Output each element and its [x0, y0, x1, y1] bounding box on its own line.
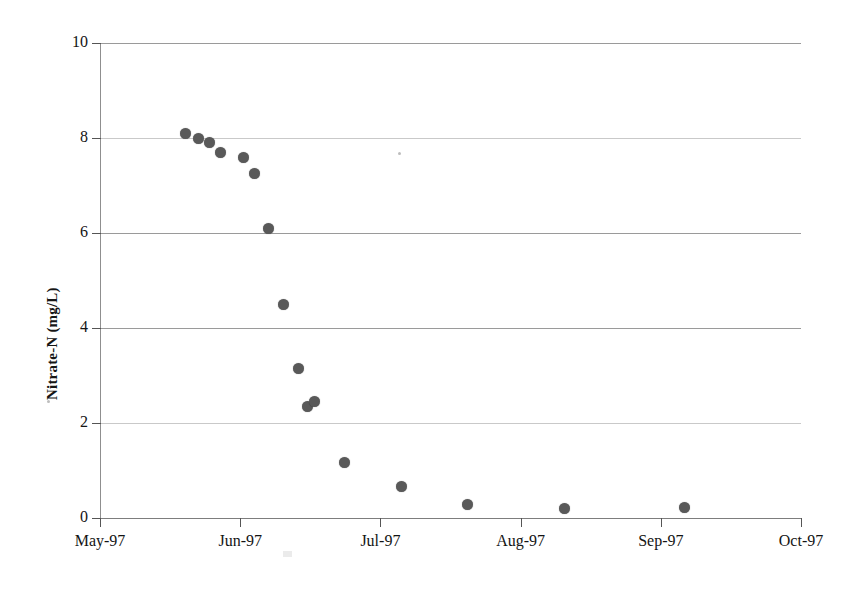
gridline [100, 233, 801, 234]
scan-speck-icon [398, 152, 401, 155]
y-tick-label-wrap: 6 [40, 224, 88, 240]
data-point [462, 499, 473, 510]
x-tick-mark [240, 518, 241, 527]
x-tick-label: Oct-97 [746, 531, 856, 551]
x-tick-mark [100, 518, 101, 527]
y-tick-label: 4 [48, 319, 88, 335]
x-tick-label: Jul-97 [325, 531, 435, 551]
x-tick-mark [661, 518, 662, 527]
data-point [204, 137, 215, 148]
data-point [559, 503, 570, 514]
chart-container: Nitrate-N (mg/L) 0246810 May-97Jun-97Jul… [0, 0, 864, 596]
gridline [100, 328, 801, 329]
y-tick-mark [92, 328, 101, 329]
x-tick-label: Aug-97 [466, 531, 576, 551]
data-point [263, 223, 274, 234]
y-tick-label: 6 [48, 224, 88, 240]
x-tick-mark [801, 518, 802, 527]
x-tick-mark [521, 518, 522, 527]
data-point [339, 457, 350, 468]
scan-smudge-icon [283, 551, 292, 557]
data-point [249, 168, 260, 179]
y-tick-label-wrap: 8 [40, 129, 88, 145]
data-point [238, 152, 249, 163]
data-point [193, 133, 204, 144]
y-axis-line [100, 43, 101, 519]
y-tick-mark [92, 423, 101, 424]
y-tick-label: 0 [48, 509, 88, 525]
data-point [309, 396, 320, 407]
x-tick-mark [380, 518, 381, 527]
x-tick-label: May-97 [45, 531, 155, 551]
scan-speck-icon [47, 400, 50, 403]
y-tick-label: 10 [48, 34, 88, 50]
y-tick-label: 2 [48, 414, 88, 430]
y-axis-title: Nitrate-N (mg/L) [44, 100, 68, 400]
data-point [293, 363, 304, 374]
x-axis-line [100, 518, 802, 519]
data-point [278, 299, 289, 310]
x-tick-label: Jun-97 [185, 531, 295, 551]
y-tick-mark [92, 43, 101, 44]
y-tick-label: 8 [48, 129, 88, 145]
gridline [100, 423, 801, 424]
data-point [215, 147, 226, 158]
gridline [100, 43, 801, 44]
y-tick-label-wrap: 2 [40, 414, 88, 430]
y-tick-label-wrap: 0 [40, 509, 88, 525]
y-tick-label-wrap: 10 [40, 34, 88, 50]
data-point [396, 481, 407, 492]
data-point [679, 502, 690, 513]
y-tick-mark [92, 233, 101, 234]
y-tick-label-wrap: 4 [40, 319, 88, 335]
x-tick-label: Sep-97 [606, 531, 716, 551]
y-tick-mark [92, 138, 101, 139]
